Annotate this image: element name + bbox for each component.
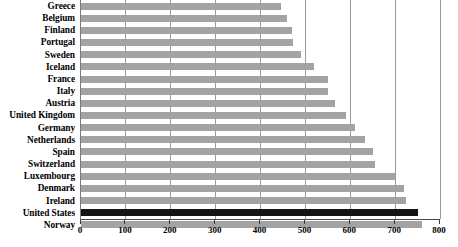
y-axis-label: United Kingdom bbox=[0, 109, 78, 121]
bar bbox=[81, 124, 355, 131]
bar-chart: GreeceBelgiumFinlandPortugalSwedenIcelan… bbox=[0, 0, 458, 247]
bar-row bbox=[81, 49, 440, 61]
y-axis-label: Italy bbox=[0, 85, 78, 97]
x-axis-tick bbox=[349, 220, 350, 224]
x-axis-tick bbox=[394, 220, 395, 224]
y-axis-label: Austria bbox=[0, 97, 78, 109]
bar-row bbox=[81, 122, 440, 134]
bar bbox=[81, 3, 281, 10]
bar-row bbox=[81, 109, 440, 121]
y-axis-label: Switzerland bbox=[0, 158, 78, 170]
x-axis-tick bbox=[304, 220, 305, 224]
bar bbox=[81, 15, 287, 22]
bar-row bbox=[81, 97, 440, 109]
bar-row bbox=[81, 73, 440, 85]
bar-row bbox=[81, 170, 440, 182]
x-axis-tick-label: 600 bbox=[343, 225, 357, 235]
bar bbox=[81, 173, 395, 180]
bar bbox=[81, 197, 406, 204]
x-axis-tick-label: 700 bbox=[387, 225, 401, 235]
y-axis-label: Iceland bbox=[0, 61, 78, 73]
y-axis-label: Portugal bbox=[0, 36, 78, 48]
y-axis-label: Finland bbox=[0, 24, 78, 36]
y-axis-label: Luxembourg bbox=[0, 170, 78, 182]
bar bbox=[81, 51, 301, 58]
bar bbox=[81, 185, 404, 192]
x-axis-tick-label: 100 bbox=[118, 225, 132, 235]
bar-row bbox=[81, 12, 440, 24]
bar bbox=[81, 112, 346, 119]
bar bbox=[81, 27, 292, 34]
x-axis-tick bbox=[80, 220, 81, 224]
bar-series bbox=[81, 0, 440, 219]
y-axis-label: France bbox=[0, 73, 78, 85]
y-axis-label: Norway bbox=[0, 219, 78, 231]
bar-row bbox=[81, 0, 440, 12]
y-axis-label: Denmark bbox=[0, 182, 78, 194]
bar bbox=[81, 209, 418, 216]
bar bbox=[81, 63, 314, 70]
bar bbox=[81, 136, 365, 143]
bar bbox=[81, 161, 375, 168]
x-axis-tick bbox=[169, 220, 170, 224]
bar-row bbox=[81, 24, 440, 36]
bar-row bbox=[81, 85, 440, 97]
x-axis-tick-label: 400 bbox=[253, 225, 267, 235]
bar bbox=[81, 88, 328, 95]
x-axis-tick-label: 200 bbox=[163, 225, 177, 235]
x-axis-tick-label: 300 bbox=[208, 225, 222, 235]
bar bbox=[81, 148, 373, 155]
bar-row bbox=[81, 207, 440, 219]
bar-row bbox=[81, 195, 440, 207]
x-axis-tick bbox=[439, 220, 440, 224]
bar bbox=[81, 100, 335, 107]
bar-row bbox=[81, 134, 440, 146]
x-axis: 0100200300400500600700800 bbox=[80, 220, 439, 246]
y-axis-label: United States bbox=[0, 207, 78, 219]
y-axis-label: Ireland bbox=[0, 195, 78, 207]
bar-row bbox=[81, 61, 440, 73]
bar-row bbox=[81, 182, 440, 194]
bar-row bbox=[81, 146, 440, 158]
y-axis-label: Sweden bbox=[0, 49, 78, 61]
x-axis-tick-label: 0 bbox=[78, 225, 83, 235]
y-axis-label: Germany bbox=[0, 122, 78, 134]
x-axis-tick-label: 800 bbox=[432, 225, 446, 235]
y-axis-label: Netherlands bbox=[0, 134, 78, 146]
x-axis-tick bbox=[124, 220, 125, 224]
y-axis-label: Greece bbox=[0, 0, 78, 12]
bar bbox=[81, 76, 328, 83]
y-axis-label: Belgium bbox=[0, 12, 78, 24]
bar-row bbox=[81, 158, 440, 170]
y-axis-category-labels: GreeceBelgiumFinlandPortugalSwedenIcelan… bbox=[0, 0, 78, 219]
y-axis-label: Spain bbox=[0, 146, 78, 158]
x-axis-tick bbox=[259, 220, 260, 224]
x-axis-tick-label: 500 bbox=[298, 225, 312, 235]
bar bbox=[81, 39, 293, 46]
bar-row bbox=[81, 36, 440, 48]
plot-area bbox=[80, 0, 440, 220]
x-axis-tick bbox=[214, 220, 215, 224]
